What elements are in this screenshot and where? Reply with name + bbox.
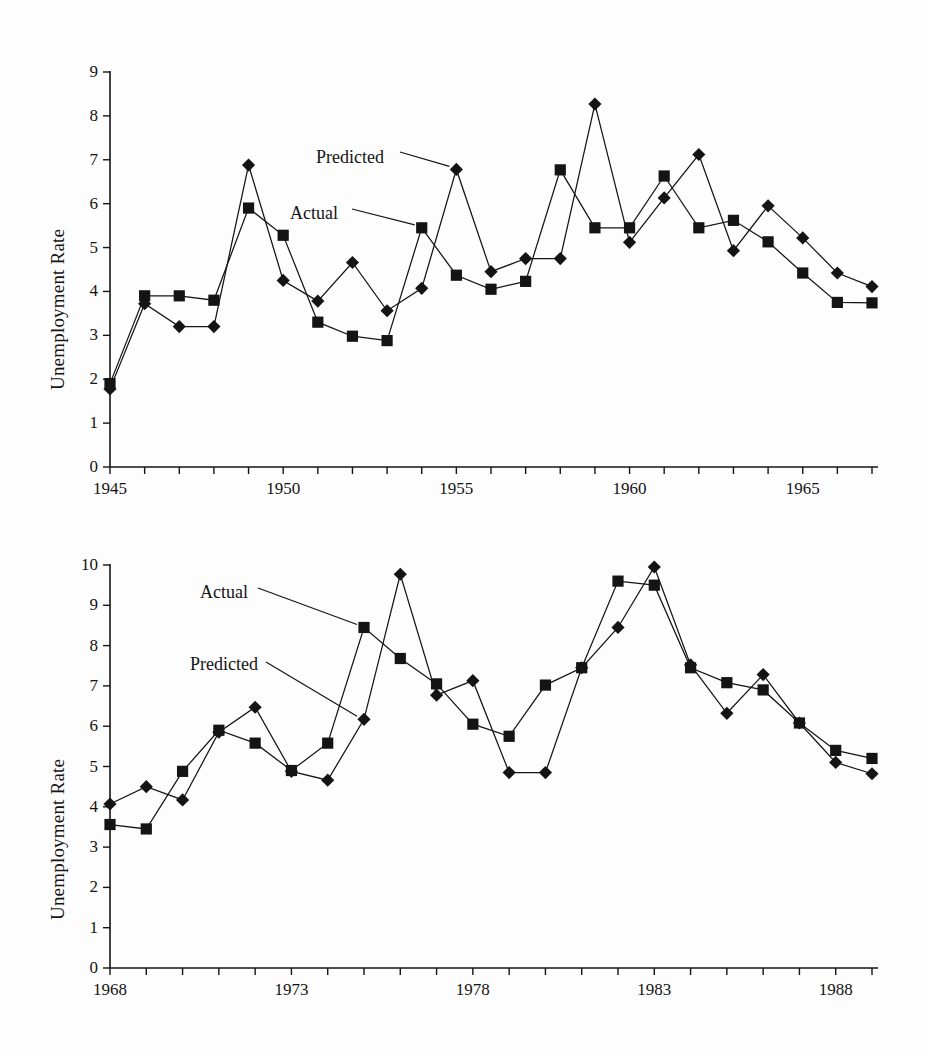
marker-diamond-predicted [321, 774, 334, 787]
marker-diamond-predicted [539, 766, 552, 779]
marker-diamond-predicted [380, 304, 393, 317]
marker-square-actual [649, 580, 660, 591]
marker-square-actual [416, 222, 427, 233]
y-tick-label: 7 [62, 677, 98, 694]
y-tick-label: 1 [62, 414, 98, 431]
x-tick-label: 1978 [451, 981, 495, 998]
x-tick-label: 1950 [261, 480, 305, 497]
marker-square-actual [250, 738, 261, 749]
marker-diamond-predicted [430, 689, 443, 702]
marker-diamond-predicted [727, 244, 740, 257]
y-tick-label: 4 [62, 798, 98, 815]
marker-diamond-predicted [484, 265, 497, 278]
marker-diamond-predicted [588, 97, 601, 110]
marker-square-actual [395, 653, 406, 664]
marker-square-actual [467, 719, 478, 730]
marker-diamond-predicted [140, 780, 153, 793]
marker-square-actual [358, 622, 369, 633]
y-tick-label: 6 [62, 717, 98, 734]
x-tick-label: 1960 [608, 480, 652, 497]
y-tick-label: 5 [62, 239, 98, 256]
marker-square-actual [520, 276, 531, 287]
plot-area-bottom [0, 520, 928, 1055]
y-tick-label: 2 [62, 878, 98, 895]
marker-square-actual [762, 236, 773, 247]
x-tick-label: 1945 [88, 480, 132, 497]
series-line-predicted [110, 104, 872, 389]
annotation-label-actual: Actual [200, 583, 248, 601]
y-tick-label: 9 [62, 596, 98, 613]
annotation-leader-line [400, 152, 449, 166]
marker-diamond-predicted [623, 236, 636, 249]
marker-square-actual [540, 679, 551, 690]
marker-diamond-predicted [357, 713, 370, 726]
marker-diamond-predicted [242, 158, 255, 171]
marker-diamond-predicted [658, 191, 671, 204]
marker-square-actual [659, 170, 670, 181]
annotation-leader-line [352, 209, 415, 225]
marker-square-actual [381, 335, 392, 346]
marker-diamond-predicted [865, 767, 878, 780]
marker-square-actual [758, 684, 769, 695]
marker-diamond-predicted [207, 320, 220, 333]
y-tick-label: 5 [62, 758, 98, 775]
y-tick-label: 9 [62, 63, 98, 80]
marker-square-actual [721, 677, 732, 688]
x-tick-label: 1955 [434, 480, 478, 497]
marker-square-actual [174, 290, 185, 301]
marker-square-actual [555, 164, 566, 175]
x-tick-label: 1965 [781, 480, 825, 497]
marker-diamond-predicted [519, 252, 532, 265]
marker-square-actual [693, 222, 704, 233]
marker-square-actual [278, 230, 289, 241]
marker-square-actual [866, 297, 877, 308]
marker-diamond-predicted [277, 274, 290, 287]
marker-diamond-predicted [249, 701, 262, 714]
marker-square-actual [504, 731, 515, 742]
x-tick-label: 1973 [269, 981, 313, 998]
marker-square-actual [832, 297, 843, 308]
series-line-actual [110, 581, 872, 829]
marker-square-actual [485, 284, 496, 295]
y-tick-label: 0 [62, 458, 98, 475]
marker-square-actual [830, 745, 841, 756]
y-tick-label: 1 [62, 919, 98, 936]
chart-top-unemployment: Unemployment Rate 0123456789194519501955… [0, 0, 928, 520]
y-tick-label: 4 [62, 282, 98, 299]
annotation-leader-line [258, 588, 357, 624]
marker-square-actual [612, 576, 623, 587]
marker-diamond-predicted [176, 793, 189, 806]
marker-square-actual [728, 215, 739, 226]
x-tick-label: 1968 [88, 981, 132, 998]
y-tick-label: 6 [62, 195, 98, 212]
plot-area-top [0, 0, 928, 520]
marker-diamond-predicted [466, 674, 479, 687]
marker-diamond-predicted [692, 148, 705, 161]
annotation-label-predicted: Predicted [316, 148, 384, 166]
x-tick-label: 1988 [814, 981, 858, 998]
annotation-leader-line [266, 662, 357, 716]
figure-page: Unemployment Rate 0123456789194519501955… [0, 0, 928, 1055]
y-tick-label: 3 [62, 326, 98, 343]
y-tick-label: 0 [62, 959, 98, 976]
marker-square-actual [347, 331, 358, 342]
marker-square-actual [451, 270, 462, 281]
y-tick-label: 2 [62, 370, 98, 387]
y-tick-label: 7 [62, 151, 98, 168]
chart-bottom-unemployment: Unemployment Rate 0123456789101968197319… [0, 520, 928, 1055]
marker-square-actual [243, 202, 254, 213]
marker-square-actual [797, 267, 808, 278]
marker-diamond-predicted [865, 280, 878, 293]
marker-square-actual [104, 819, 115, 830]
y-tick-label: 8 [62, 637, 98, 654]
x-tick-label: 1983 [632, 981, 676, 998]
marker-diamond-predicted [503, 766, 516, 779]
marker-diamond-predicted [103, 797, 116, 810]
marker-square-actual [866, 753, 877, 764]
marker-diamond-predicted [450, 163, 463, 176]
marker-square-actual [208, 295, 219, 306]
marker-diamond-predicted [415, 282, 428, 295]
annotation-label-predicted: Predicted [190, 655, 258, 673]
marker-diamond-predicted [554, 252, 567, 265]
y-tick-label: 10 [62, 556, 98, 573]
